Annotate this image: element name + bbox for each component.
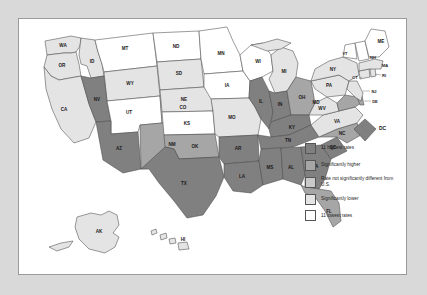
state-AR[interactable] bbox=[219, 135, 259, 164]
dc-marker-label: DC bbox=[379, 125, 386, 131]
state-label-HI: HI bbox=[181, 237, 186, 242]
legend-label-not-different: Rate not significantly different from U.… bbox=[321, 176, 401, 188]
choropleth-map: WA OR ID MT WY CA NV UT AZ NM CO ND SD N… bbox=[19, 19, 408, 276]
legend: 11 highest rates Significantly higher Ra… bbox=[305, 143, 401, 227]
state-HI-island-2[interactable] bbox=[160, 233, 167, 240]
state-MN[interactable] bbox=[199, 27, 243, 74]
legend-item-higher[interactable]: Significantly higher bbox=[305, 160, 401, 171]
state-HI-island-4[interactable] bbox=[178, 242, 189, 250]
legend-item-not-different[interactable]: Rate not significantly different from U.… bbox=[305, 176, 401, 188]
state-label-NJ: NJ bbox=[371, 89, 376, 94]
state-MS[interactable] bbox=[259, 148, 283, 185]
state-VT[interactable] bbox=[343, 43, 357, 59]
state-NE[interactable] bbox=[160, 87, 213, 112]
swatch-lowest bbox=[305, 210, 316, 221]
legend-label-highest: 11 highest rates bbox=[321, 145, 354, 151]
state-ND[interactable] bbox=[153, 31, 201, 62]
state-label-DE: DE bbox=[372, 99, 378, 104]
legend-label-lower: Significantly lower bbox=[321, 196, 359, 202]
state-IA[interactable] bbox=[204, 71, 250, 99]
state-MA[interactable] bbox=[359, 59, 383, 71]
state-HI-island-3[interactable] bbox=[169, 238, 176, 244]
state-label-MA: MA bbox=[382, 63, 388, 68]
swatch-not-different bbox=[305, 177, 316, 188]
state-AL[interactable] bbox=[281, 147, 305, 185]
state-KS[interactable] bbox=[162, 111, 215, 135]
swatch-lower bbox=[305, 194, 316, 205]
legend-label-higher: Significantly higher bbox=[321, 162, 360, 168]
state-LA[interactable] bbox=[224, 161, 263, 193]
state-ME[interactable] bbox=[365, 29, 389, 57]
state-AK[interactable] bbox=[75, 211, 119, 253]
legend-label-lowest: 11 lowest rates bbox=[321, 213, 352, 219]
figure-panel: WA OR ID MT WY CA NV UT AZ NM CO ND SD N… bbox=[18, 18, 407, 275]
state-AK-aleutians[interactable] bbox=[49, 241, 73, 251]
legend-item-lower[interactable]: Significantly lower bbox=[305, 194, 401, 205]
legend-item-lowest[interactable]: 11 lowest rates bbox=[305, 210, 401, 221]
state-label-RI: RI bbox=[382, 73, 386, 78]
state-RI[interactable] bbox=[370, 68, 376, 77]
swatch-higher bbox=[305, 160, 316, 171]
state-HI-island-1[interactable] bbox=[151, 229, 157, 235]
legend-item-highest[interactable]: 11 highest rates bbox=[305, 143, 401, 154]
state-MT[interactable] bbox=[95, 33, 157, 72]
state-SD[interactable] bbox=[157, 59, 204, 90]
swatch-highest bbox=[305, 143, 316, 154]
state-WY[interactable] bbox=[104, 66, 160, 101]
